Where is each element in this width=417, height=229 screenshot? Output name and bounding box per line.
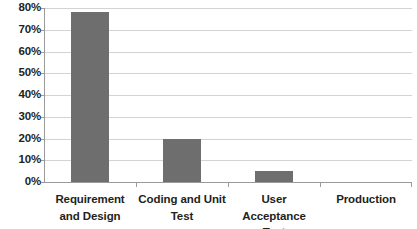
y-tick-label-40: 40%	[3, 89, 41, 101]
plot-area	[44, 8, 412, 182]
y-tick-mark-60	[41, 52, 45, 53]
x-tick-mark-2	[228, 183, 229, 187]
bar-coding-and-unit-test	[163, 139, 201, 183]
y-tick-label-60: 60%	[3, 46, 41, 58]
y-tick-label-20: 20%	[3, 133, 41, 145]
gridline-80	[44, 8, 412, 9]
y-tick-mark-20	[41, 139, 45, 140]
x-tick-mark-1	[136, 183, 137, 187]
x-label-coding-and-unit-test: Coding and Unit Test	[136, 191, 228, 229]
x-axis-labels: Requirement and Design Coding and Unit T…	[44, 191, 412, 229]
y-tick-label-70: 70%	[3, 24, 41, 36]
y-tick-mark-30	[41, 117, 45, 118]
bar-user-acceptance-test	[255, 171, 293, 182]
y-tick-mark-80	[41, 8, 45, 9]
y-tick-label-30: 30%	[3, 111, 41, 123]
y-tick-mark-0	[41, 182, 45, 183]
x-label-production: Production	[320, 191, 412, 229]
bar-chart: 80% 70% 60% 50% 40% 30% 20% 10% 0% Requi…	[0, 0, 417, 229]
y-tick-mark-40	[41, 95, 45, 96]
bar-requirement-and-design	[71, 12, 109, 182]
y-tick-mark-70	[41, 30, 45, 31]
x-tick-mark-4	[411, 183, 412, 187]
y-axis-labels: 80% 70% 60% 50% 40% 30% 20% 10% 0%	[0, 0, 41, 229]
x-label-user-acceptance-test: User Acceptance Test	[228, 191, 320, 229]
y-tick-label-10: 10%	[3, 155, 41, 167]
y-tick-mark-50	[41, 73, 45, 74]
y-tick-mark-10	[41, 160, 45, 161]
x-label-requirement-and-design: Requirement and Design	[44, 191, 136, 229]
y-tick-label-0: 0%	[3, 176, 41, 188]
y-tick-label-80: 80%	[3, 2, 41, 14]
y-tick-label-50: 50%	[3, 68, 41, 80]
x-tick-mark-3	[320, 183, 321, 187]
